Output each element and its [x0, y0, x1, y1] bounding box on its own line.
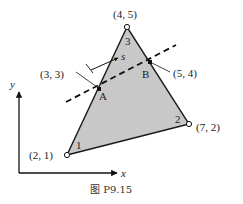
point-a-coord-label: (3, 3)	[40, 68, 64, 81]
node-2-coord-label: (7, 2)	[196, 121, 220, 134]
node-1-number: 1	[76, 139, 82, 151]
node-3-number: 3	[125, 35, 131, 47]
point-b-marker	[148, 60, 152, 64]
node-2-number: 2	[175, 113, 181, 125]
x-axis-label: x	[120, 167, 126, 179]
node-3-coord-label: (4, 5)	[113, 8, 137, 21]
point-a-label: A	[99, 90, 107, 102]
s-axis-tick	[86, 64, 93, 73]
s-axis-label: s	[121, 50, 125, 62]
node-2-marker	[186, 121, 191, 126]
figure-caption: 图 P9.15	[90, 184, 132, 195]
y-axis-label: y	[9, 78, 15, 90]
point-b-coord-label: (5, 4)	[173, 67, 197, 80]
point-b-label: B	[142, 68, 149, 80]
figure-canvas: y x s 1 2 3 (2, 1) (7, 2) (4, 5) A B (3,…	[0, 0, 243, 204]
node-3-marker	[124, 24, 129, 29]
point-a-leader	[76, 72, 97, 87]
node-1-marker	[64, 152, 69, 157]
node-1-coord-label: (2, 1)	[29, 149, 53, 162]
